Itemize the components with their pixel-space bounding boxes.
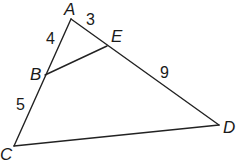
side-ad: [71, 19, 219, 125]
side-ac: [14, 19, 71, 146]
segment-be: [45, 46, 107, 75]
vertex-label-a: A: [63, 0, 75, 19]
vertex-label-c: C: [0, 145, 13, 164]
length-bc: 5: [16, 96, 25, 113]
vertex-label-e: E: [111, 27, 123, 46]
triangle-diagram: A B C D E 4 5 3 9: [0, 0, 242, 167]
length-ab: 4: [46, 30, 55, 47]
vertex-label-d: D: [223, 118, 235, 137]
side-cd: [14, 125, 219, 146]
length-ed: 9: [160, 64, 169, 81]
vertex-label-b: B: [30, 65, 41, 84]
length-ae: 3: [86, 11, 95, 28]
